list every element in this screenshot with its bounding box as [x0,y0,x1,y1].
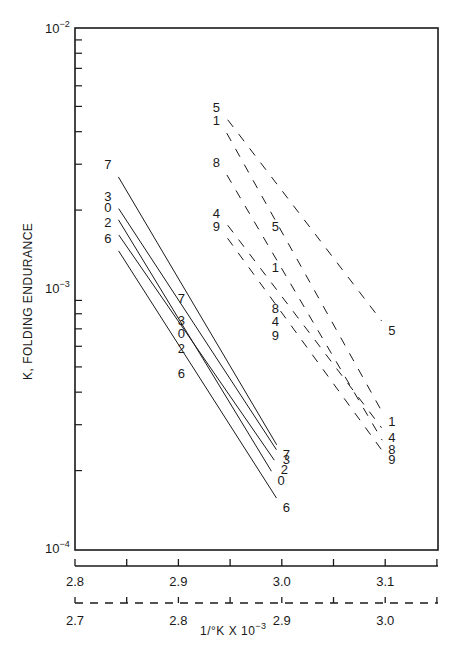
y-axis-title: K, FOLDING ENDURANCE [21,223,35,380]
series-line [228,120,382,321]
series-line [228,225,382,427]
series-label: 1 [213,113,220,128]
x-solid-tick-label: 2.9 [169,574,187,589]
x-solid-tick-label: 3.0 [273,574,291,589]
series-group: 777333000222666555111888444999 [104,100,395,515]
series-label: 2 [281,462,288,477]
x-solid-tick-label: 2.8 [66,574,84,589]
x-axis-solid [75,559,438,566]
series-label: 0 [178,326,185,341]
series-5: 555 [213,100,396,337]
y-tick-labels: 10−2 10−3 10−4 [45,19,70,556]
series-6: 666 [104,231,290,515]
series-3: 333 [104,189,290,467]
series-label: 7 [104,157,111,172]
x-dashed-tick-label: 3.0 [376,613,394,628]
series-label: 1 [388,414,395,429]
series-label: 8 [213,155,220,170]
series-2: 222 [104,215,288,477]
series-line [228,238,382,450]
arrhenius-plot: 10−2 10−3 10−4 K, FOLDING ENDURANCE 2.82… [0,0,455,659]
series-label: 6 [178,366,185,381]
series-8: 888 [213,155,396,457]
x-axis-dashed [75,597,438,603]
x-solid-tick-label: 3.1 [376,574,394,589]
series-label: 2 [104,215,111,230]
series-line [227,133,383,412]
series-line [119,209,277,450]
series-label: 6 [283,500,290,515]
x-axis-solid-labels: 2.82.93.03.1 [66,574,394,589]
series-line [118,177,276,445]
y-tick-label-1e-2: 10−2 [45,19,70,36]
series-label: 9 [272,328,279,343]
series-label: 0 [104,200,111,215]
series-1: 111 [213,113,396,429]
series-label: 1 [272,260,279,275]
y-tick-label-1e-3: 10−3 [45,279,70,296]
plot-frame [75,28,438,550]
series-label: 4 [388,430,395,445]
series-label: 9 [388,452,395,467]
series-label: 6 [104,231,111,246]
series-line [119,251,277,498]
y-tick-label-1e-4: 10−4 [45,539,70,556]
x-dashed-tick-label: 2.7 [66,613,84,628]
series-label: 5 [272,219,279,234]
series-9: 999 [213,219,396,467]
series-7: 777 [104,157,290,462]
series-line [119,235,274,460]
x-dashed-tick-label: 2.8 [169,613,187,628]
y-axis-ticks [75,40,82,471]
series-label: 5 [388,323,395,338]
series-label: 9 [213,219,220,234]
x-dashed-tick-label: 2.9 [273,613,291,628]
x-axis-title: 1/°K X 10−3 [200,621,267,638]
series-4: 444 [213,206,396,445]
